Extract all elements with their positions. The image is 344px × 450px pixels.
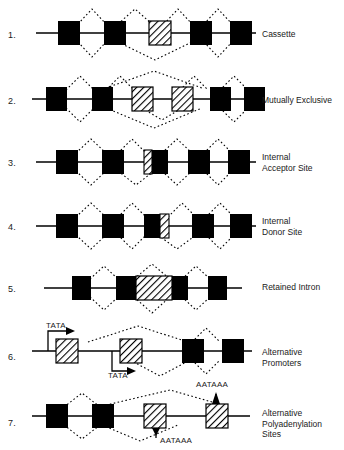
constitutive-exon: [210, 87, 231, 111]
constitutive-exon: [92, 87, 113, 111]
row-diagram: [30, 0, 262, 66]
constitutive-exon: [188, 150, 210, 174]
row-diagram: [30, 130, 262, 194]
row-number: 5.: [8, 284, 28, 294]
alternative-first-exon: [120, 339, 142, 363]
row-label: Mutually Exclusive: [262, 95, 344, 106]
row-number: 6.: [8, 352, 28, 362]
row-label-line: Alternative: [262, 347, 344, 358]
splicing-row-alternative-polya: 7.: [0, 386, 344, 450]
constitutive-exon: [192, 214, 214, 238]
constitutive-exon-segment: [144, 214, 160, 238]
splicing-row-retained-intron: 5.: [0, 258, 344, 318]
tata-box-label: TATA: [46, 321, 66, 330]
constitutive-exon: [46, 87, 67, 111]
constitutive-exon: [190, 21, 212, 45]
row-label: Internal Donor Site: [262, 216, 344, 237]
alternative-acceptor-exon: [144, 150, 168, 174]
constitutive-exon-segment: [152, 150, 168, 174]
constitutive-exon: [230, 214, 252, 238]
row-diagram: [30, 258, 262, 318]
splice-arcs-below: [130, 360, 220, 376]
polya-signal-label: AATAAA: [196, 380, 228, 389]
splicing-row-alternative-promoters: 6.: [0, 318, 344, 386]
mutually-exclusive-arc-above: [106, 71, 202, 88]
splicing-row-mutually-exclusive: 2.: [0, 66, 344, 130]
row-label-line: Acceptor Site: [262, 163, 344, 174]
alternative-exon: [172, 87, 193, 111]
constitutive-exon: [102, 214, 124, 238]
row-label: Alternative Polyadenylation Sites: [262, 408, 344, 440]
constitutive-exon: [46, 404, 68, 428]
polya-arrowhead-1: [152, 428, 160, 436]
row-label-line: Promoters: [262, 358, 344, 369]
alternative-donor-exon: [144, 214, 169, 238]
constitutive-exon-segment: [116, 276, 136, 300]
row-number: 7.: [8, 418, 28, 428]
row-label: Alternative Promoters: [262, 347, 344, 368]
constitutive-exon: [92, 404, 114, 428]
alternative-exon-segment: [144, 150, 152, 174]
alternative-terminal-exon: [144, 404, 166, 428]
row-label-line: Alternative: [262, 408, 344, 419]
splicing-row-internal-donor: 4.: [0, 194, 344, 258]
row-label: Retained Intron: [262, 282, 344, 293]
alternative-splicing-figure: 1.: [0, 0, 344, 450]
constitutive-exon: [56, 150, 78, 174]
constitutive-exon: [228, 150, 250, 174]
row-label-line: Polyadenylation: [262, 419, 344, 430]
row-number: 4.: [8, 222, 28, 232]
polya-arrowhead-2: [212, 392, 220, 404]
constitutive-exon: [72, 276, 91, 300]
alternative-exon-segment: [160, 214, 169, 238]
alternative-exon: [149, 21, 171, 45]
retained-intron-region: [136, 276, 172, 300]
row-diagram: [30, 386, 262, 450]
alternative-terminal-exon: [206, 404, 228, 428]
constitutive-exon: [208, 276, 227, 300]
constitutive-exon: [182, 339, 204, 363]
row-diagram: [30, 66, 262, 130]
row-label: Cassette: [262, 29, 344, 40]
polya-signal-label: AATAAA: [160, 436, 192, 445]
row-label-line: Internal: [262, 216, 344, 227]
splicing-row-cassette: 1.: [0, 0, 344, 66]
row-number: 3.: [8, 158, 28, 168]
constitutive-exon: [222, 339, 244, 363]
constitutive-exon: [58, 21, 80, 45]
splicing-row-internal-acceptor: 3.: [0, 130, 344, 194]
row-label-line: Sites: [262, 429, 344, 440]
alternative-exon: [132, 87, 153, 111]
constitutive-exon: [56, 214, 78, 238]
promoter-arrowhead-2: [127, 367, 136, 375]
row-label: Internal Acceptor Site: [262, 152, 344, 173]
constitutive-exon: [104, 21, 126, 45]
alternative-first-exon: [56, 339, 78, 363]
row-label-line: Internal: [262, 152, 344, 163]
constitutive-exon-segment: [172, 276, 188, 300]
tata-box-label: TATA: [108, 371, 128, 380]
row-number: 2.: [8, 96, 28, 106]
promoter-arrowhead-1: [66, 327, 75, 335]
row-label-line: Donor Site: [262, 227, 344, 238]
retained-intron-unit: [116, 276, 188, 300]
constitutive-exon: [230, 21, 252, 45]
constitutive-exon: [102, 150, 124, 174]
row-diagram: [30, 194, 262, 258]
row-number: 1.: [8, 30, 28, 40]
